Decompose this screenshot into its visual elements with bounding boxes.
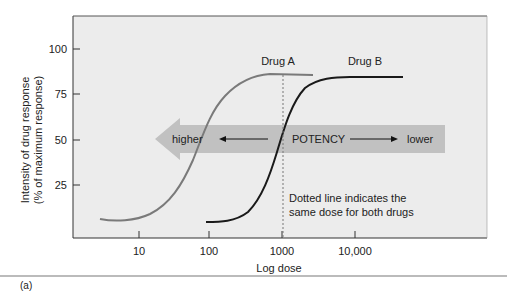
x-tick-label: 1000 [270,245,294,257]
x-tick-label: 100 [200,245,218,257]
figure-label: (a) [20,280,32,291]
y-axis-sublabel: (% of maximum response) [32,76,44,204]
y-tick-label: 100 [49,43,67,55]
potency-label: POTENCY [292,133,346,145]
x-axis-label: Log dose [256,262,301,274]
dotted-line-note-1: Dotted line indicates the [289,192,406,204]
y-tick-label: 50 [55,134,67,146]
y-tick-label: 75 [55,88,67,100]
y-axis-label: Intensity of drug response [19,77,31,204]
y-tick-label: 25 [55,179,67,191]
potency-higher-label: higher [172,133,203,145]
potency-lower-label: lower [407,133,434,145]
drug-a-label: Drug A [261,55,295,67]
drug-b-label: Drug B [348,55,382,67]
x-tick-label: 10,000 [338,245,372,257]
x-tick-label: 10 [133,245,145,257]
dose-response-chart: 100 75 50 25 10 100 1000 10,000 Log dose… [0,0,507,291]
dotted-line-note-2: same dose for both drugs [289,206,414,218]
